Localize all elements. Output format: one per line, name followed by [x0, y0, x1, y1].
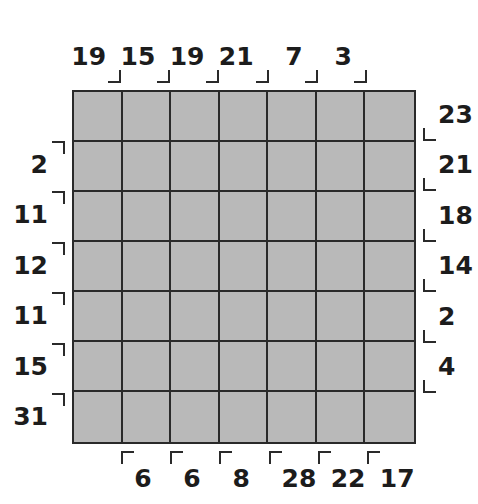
grid-cell: [171, 92, 220, 142]
grid-cell: [74, 92, 123, 142]
grid-cell: [220, 392, 269, 442]
grid-cell: [220, 342, 269, 392]
tick-bottom-0: [121, 451, 134, 464]
grid-area: [72, 90, 416, 444]
tick-bottom-5: [367, 451, 380, 464]
top-label-4: 7: [285, 44, 302, 69]
grid-cell: [171, 192, 220, 242]
bottom-label-1: 6: [183, 466, 200, 491]
grid-cell: [123, 292, 172, 342]
right-label-3: 14: [438, 253, 473, 278]
grid-cell: [74, 392, 123, 442]
grid-cell: [171, 142, 220, 192]
grid-cell: [171, 342, 220, 392]
tick-top-3: [256, 70, 269, 83]
grid-cell: [317, 142, 366, 192]
grid-cell: [220, 242, 269, 292]
grid-cell: [268, 342, 317, 392]
left-label-0: 2: [31, 152, 48, 177]
top-label-2: 19: [170, 44, 205, 69]
grid-cell: [220, 192, 269, 242]
tick-right-4: [423, 330, 436, 343]
grid-cell: [365, 392, 414, 442]
bottom-label-2: 8: [232, 466, 249, 491]
grid-cell: [317, 192, 366, 242]
grid-cell: [123, 392, 172, 442]
tick-left-1: [52, 191, 65, 204]
grid-cell: [74, 292, 123, 342]
grid-cell: [220, 292, 269, 342]
tick-left-5: [52, 393, 65, 406]
grid-cell: [123, 342, 172, 392]
tick-top-5: [354, 70, 367, 83]
grid-cell: [317, 242, 366, 292]
left-label-2: 12: [13, 253, 48, 278]
tick-bottom-2: [219, 451, 232, 464]
left-label-5: 31: [13, 404, 48, 429]
tick-right-3: [423, 279, 436, 292]
grid-cell: [220, 92, 269, 142]
grid-cell: [365, 242, 414, 292]
grid-cell: [365, 292, 414, 342]
grid-cell: [123, 192, 172, 242]
right-label-1: 21: [438, 152, 473, 177]
grid-cell: [74, 342, 123, 392]
grid-cell: [171, 242, 220, 292]
grid-cell: [171, 292, 220, 342]
grid-cell: [171, 392, 220, 442]
grid-cell: [268, 392, 317, 442]
top-label-5: 3: [334, 44, 351, 69]
grid-cell: [123, 92, 172, 142]
tick-bottom-4: [318, 451, 331, 464]
tick-right-0: [423, 128, 436, 141]
grid-cell: [268, 92, 317, 142]
right-label-4: 2: [438, 304, 455, 329]
left-label-3: 11: [13, 303, 48, 328]
left-label-4: 15: [13, 354, 48, 379]
grid-cell: [317, 392, 366, 442]
grid-cell: [74, 242, 123, 292]
tick-top-0: [108, 70, 121, 83]
tick-left-3: [52, 292, 65, 305]
grid-cell: [268, 242, 317, 292]
tick-right-5: [423, 380, 436, 393]
bottom-label-3: 28: [282, 466, 317, 491]
grid-diagram: 1915192173668282217211121115312321181424: [0, 0, 478, 504]
tick-top-2: [206, 70, 219, 83]
bottom-label-4: 22: [331, 466, 366, 491]
bottom-label-5: 17: [380, 466, 415, 491]
grid-cell: [365, 192, 414, 242]
right-label-5: 4: [438, 354, 455, 379]
left-label-1: 11: [13, 202, 48, 227]
tick-right-2: [423, 229, 436, 242]
tick-left-0: [52, 141, 65, 154]
grid-cell: [268, 192, 317, 242]
tick-left-2: [52, 242, 65, 255]
grid-cell: [317, 92, 366, 142]
tick-left-4: [52, 343, 65, 356]
grid-cell: [365, 142, 414, 192]
top-label-1: 15: [120, 44, 155, 69]
grid-cell: [74, 192, 123, 242]
grid-cell: [317, 342, 366, 392]
tick-top-4: [305, 70, 318, 83]
grid-cell: [317, 292, 366, 342]
right-label-2: 18: [438, 203, 473, 228]
grid-cell: [74, 142, 123, 192]
grid-cell: [220, 142, 269, 192]
grid-cell: [365, 342, 414, 392]
tick-bottom-1: [170, 451, 183, 464]
tick-top-1: [157, 70, 170, 83]
top-label-3: 21: [219, 44, 254, 69]
bottom-label-0: 6: [134, 466, 151, 491]
tick-bottom-3: [269, 451, 282, 464]
right-label-0: 23: [438, 102, 473, 127]
grid-cell: [123, 242, 172, 292]
grid-cell: [365, 92, 414, 142]
top-label-0: 19: [71, 44, 106, 69]
tick-right-1: [423, 178, 436, 191]
grid-cell: [268, 292, 317, 342]
grid-cell: [123, 142, 172, 192]
grid-cell: [268, 142, 317, 192]
